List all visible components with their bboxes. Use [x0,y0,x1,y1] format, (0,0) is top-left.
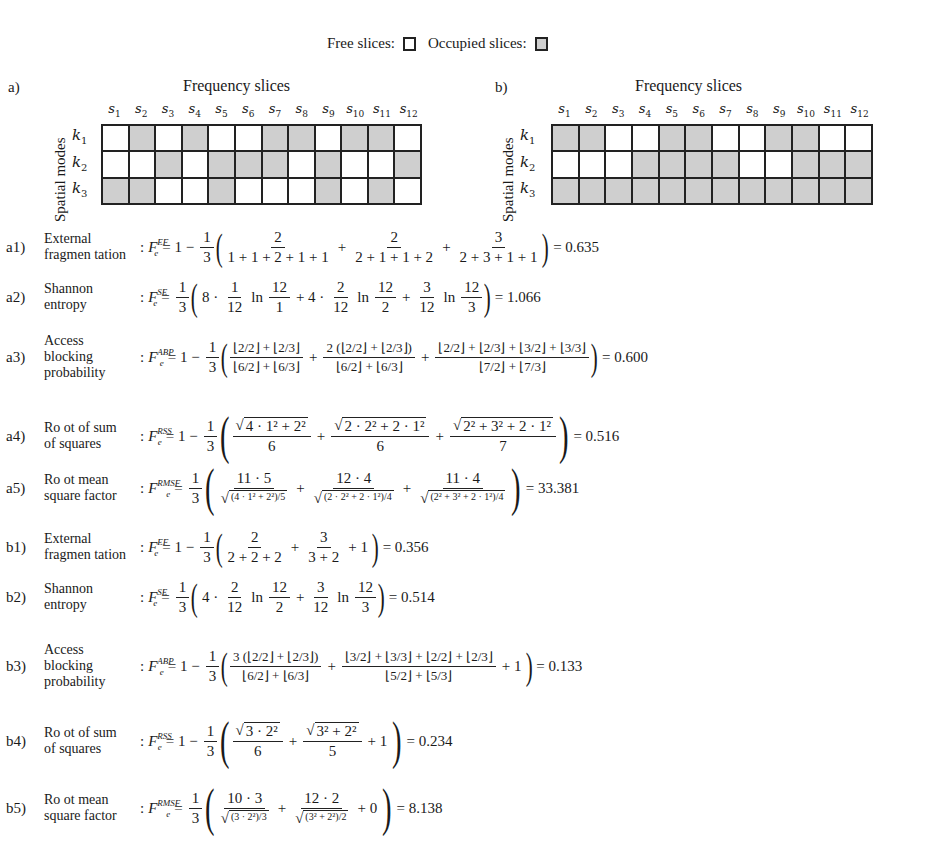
fraction: 13 [200,529,214,566]
right-paren-icon: ) [392,715,402,767]
metric-name: Externalfragmen tation [44,531,136,563]
denominator: √(4 · 1² + 2²)/5 [218,489,291,507]
denominator: 7 [496,437,510,455]
numerator: 3 [492,229,506,248]
equation-lead: = 1 − [168,349,200,366]
plus-operator: + [403,480,411,497]
equation-result: = 8.138 [396,800,442,817]
equation-id: b3) [0,658,44,675]
fraction: 112 [224,279,245,316]
slice-cell-k3-s11-occupied [369,179,394,203]
fraction: 212 [330,279,351,316]
slice-cell-k1-s9-occupied [766,126,791,150]
slice-cell-k3-s2-occupied [130,179,155,203]
column-label-s7: s7 [262,101,289,119]
fraction: 13 [200,229,214,266]
slice-cell-k2-s9-free [766,152,791,176]
denominator: 12 [310,598,331,616]
numerator: 10 · 3 [224,790,265,809]
slice-cell-k2-s5-occupied [660,152,685,176]
denominator: 12 [417,298,438,316]
colon: : [140,239,144,256]
denominator: 1 + 1 + 2 + 1 + 1 [224,248,331,266]
equation-row-a3: a3)Accessblockingprobability:FABPe= 1 −1… [0,333,648,381]
slice-cell-k3-s3-occupied [606,179,631,203]
right-paren-icon: ) [559,410,569,462]
slice-cell-k3-s4-occupied [633,179,658,203]
numerator: 3 [420,279,434,298]
equation-id: b2) [0,589,44,606]
term-text: ln [251,289,263,306]
metric-symbol: FRMSFe [148,798,170,819]
radicand: 2 · 2² + 2 · 1² [342,417,426,435]
slice-cell-k2-s4-occupied [633,152,658,176]
panel-a-label: a) [8,79,20,96]
radical-sign-icon: √ [306,722,314,739]
metric-name-line: External [44,531,136,547]
equation-id: a4) [0,428,44,445]
slice-cell-k3-s4-free [183,179,208,203]
metric-name-line: External [44,231,136,247]
metric-name-line: Ro ot of sum [44,420,136,436]
slice-cell-k1-s1-occupied [553,126,578,150]
denominator: 3 [359,598,373,616]
slice-cell-k2-s4-free [183,152,208,176]
denominator: ⌊6/2⌋ + ⌊6/3⌋ [230,358,303,375]
equation-id: a2) [0,289,44,306]
metric-name-line: Ro ot mean [44,472,136,488]
slice-cell-k2-s6-occupied [236,152,261,176]
numerator: √4 · 1² + 2² [233,417,311,437]
plus-operator: + [317,428,325,445]
equation-row-a5: a5)Ro ot meansquare factor:FRMSFe=13(11 … [0,462,579,514]
column-label-s3: s3 [605,101,632,119]
equation-body: :FRMSFe=13(11 · 5√(4 · 1² + 2²)/5+12 · 4… [136,462,579,514]
panel-b-slice-grid [551,124,873,205]
slice-cell-k3-s3-free [156,179,181,203]
equation-body: :FEFe= 1 −13(22 + 2 + 2+33 + 2+ 1)= 0.35… [136,528,429,566]
slice-cell-k2-s11-occupied [820,152,845,176]
slice-cell-k3-s10-occupied [793,179,818,203]
plus-operator: + [435,428,443,445]
row-label-k2: k2 [72,153,87,173]
denominator: ⌊6/2⌋ + ⌊6/3⌋ [333,358,406,375]
right-paren-icon: ) [542,228,549,266]
column-label-s6: s6 [235,101,262,119]
slice-cell-k3-s9-occupied [766,179,791,203]
denominator: 3 [176,598,190,616]
equation-result: = 0.133 [536,658,582,675]
numerator: 2 [228,579,242,598]
radicand: (3² + 2²)/2 [303,810,348,822]
column-label-s11: s11 [369,101,396,119]
equation-id: a5) [0,480,44,497]
column-label-s9: s9 [315,101,342,119]
colon: : [140,658,144,675]
equation-result: = 1.066 [495,289,541,306]
metric-name-line: probability [44,365,136,381]
column-label-s6: s6 [685,101,712,119]
column-label-s3: s3 [155,101,182,119]
slice-cell-k1-s8-occupied [289,126,314,150]
colon: : [140,589,144,606]
denominator: ⌊5/2⌋ + ⌊5/3⌋ [382,667,455,684]
term-text: 4 · [202,589,218,606]
panel-b-x-title: Frequency slices [635,77,742,95]
legend-free-label: Free slices: [327,35,395,52]
slice-cell-k2-s3-free [606,152,631,176]
panel-a-y-title: Spatial modes [52,137,69,222]
fraction: 13 [204,723,218,760]
numerator: 1 [228,279,242,298]
equation-result: = 33.381 [526,480,579,497]
column-label-s12: s12 [846,101,873,119]
equation-lead: = [161,289,169,306]
equation-row-b3: b3)Accessblockingprobability:FABPe= 1 −1… [0,642,582,690]
fraction: √2² + 3² + 2 · 1²7 [450,417,556,455]
fraction: 13 [189,790,203,827]
slice-cell-k2-s3-occupied [156,152,181,176]
numerator: 2 [387,229,401,248]
numerator: 1 [189,470,203,489]
slice-cell-k1-s3-free [156,126,181,150]
slice-cell-k1-s8-free [740,126,765,150]
row-label-k3: k3 [72,179,87,199]
metric-name-line: Access [44,642,136,658]
fraction: 11 · 4√(2² + 3² + 2 · 1²)/4 [417,470,508,507]
